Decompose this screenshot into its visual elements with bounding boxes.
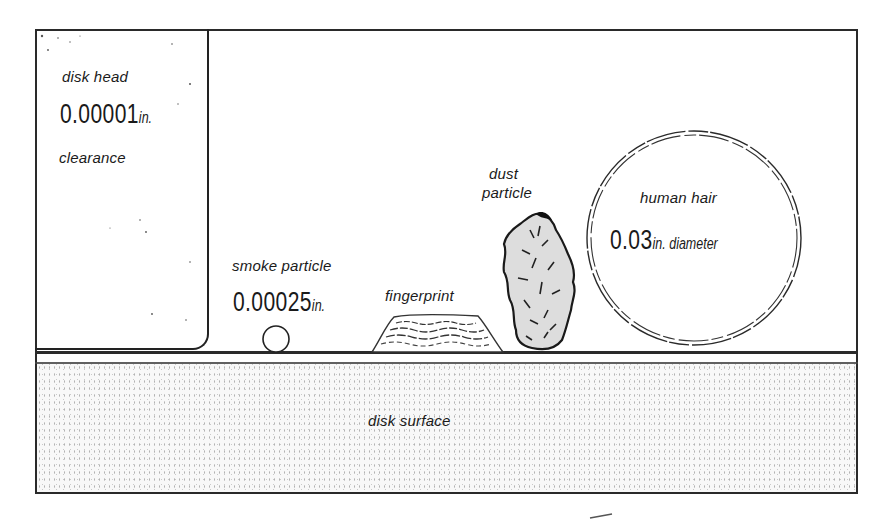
disk-head-texture: [41, 35, 191, 321]
smoke-particle-icon: [263, 326, 289, 352]
dust-particle-icon: [504, 212, 575, 349]
fingerprint-icon: [372, 315, 503, 352]
stray-mark: [590, 514, 612, 518]
diagram-illustrations: [0, 0, 886, 521]
human-hair-icon: [587, 131, 801, 345]
